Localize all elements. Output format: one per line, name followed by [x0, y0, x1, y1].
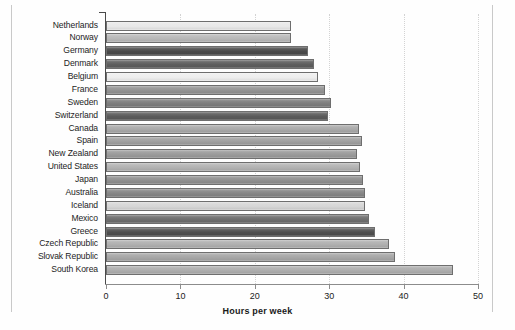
bar-row: Sweden [0, 97, 515, 110]
bar [106, 149, 357, 159]
bar-fill [107, 266, 452, 274]
bar [106, 214, 369, 224]
bar-row: France [0, 84, 515, 97]
category-label: France [72, 84, 98, 95]
bar-row: Canada [0, 123, 515, 136]
bar-row: Australia [0, 187, 515, 200]
category-label: New Zealand [48, 148, 98, 159]
x-tick-label-10: 10 [175, 291, 185, 301]
category-label: Iceland [71, 200, 98, 211]
category-label: Netherlands [53, 20, 98, 31]
y-axis-top-cap [99, 12, 106, 13]
bar-row: Spain [0, 135, 515, 148]
category-label: Denmark [64, 58, 98, 69]
bar-fill [107, 150, 356, 158]
bar-fill [107, 176, 362, 184]
bar-fill [107, 189, 364, 197]
bar-row: New Zealand [0, 148, 515, 161]
bar-row: United States [0, 161, 515, 174]
bar-row: South Korea [0, 264, 515, 277]
x-tick-label-30: 30 [324, 291, 334, 301]
bar-fill [107, 112, 327, 120]
bar-fill [107, 60, 313, 68]
bar [106, 239, 389, 249]
bar-row: Belgium [0, 71, 515, 84]
category-label: Slovak Republic [38, 251, 98, 262]
category-label: Belgium [68, 71, 98, 82]
category-label: Mexico [71, 213, 98, 224]
bar-fill [107, 73, 317, 81]
x-tick-label-20: 20 [250, 291, 260, 301]
category-label: Germany [63, 45, 98, 56]
category-label: Greece [70, 226, 98, 237]
bar-row: Iceland [0, 200, 515, 213]
x-tick-label-50: 50 [473, 291, 483, 301]
x-tick-30 [329, 284, 330, 289]
bar-fill [107, 86, 324, 94]
bar-fill [107, 125, 358, 133]
bar-fill [107, 163, 359, 171]
x-axis-title: Hours per week [0, 306, 515, 316]
bar-row: Czech Republic [0, 238, 515, 251]
bar [106, 111, 328, 121]
bar-fill [107, 202, 364, 210]
bar-row: Japan [0, 174, 515, 187]
bar-fill [107, 215, 368, 223]
x-tick-20 [255, 284, 256, 289]
category-label: Czech Republic [39, 238, 98, 249]
bar [106, 124, 359, 134]
bar-fill [107, 137, 361, 145]
bar [106, 21, 291, 31]
bar-row: Slovak Republic [0, 251, 515, 264]
category-label: Japan [75, 174, 98, 185]
bar-fill [107, 253, 394, 261]
bar [106, 265, 453, 275]
bar [106, 46, 308, 56]
category-label: Switzerland [55, 110, 98, 121]
category-label: South Korea [51, 264, 98, 275]
bar [106, 33, 291, 43]
category-label: Norway [69, 32, 98, 43]
bar-row: Greece [0, 226, 515, 239]
bar-fill [107, 22, 290, 30]
bar [106, 136, 362, 146]
bar-row: Switzerland [0, 110, 515, 123]
chart-figure: NetherlandsNorwayGermanyDenmarkBelgiumFr… [0, 0, 515, 330]
bar-fill [107, 240, 388, 248]
bar [106, 72, 318, 82]
x-tick-0 [106, 284, 107, 289]
bar [106, 59, 314, 69]
x-tick-label-40: 40 [399, 291, 409, 301]
bar-row: Netherlands [0, 20, 515, 33]
bar-fill [107, 99, 330, 107]
category-label: United States [48, 161, 98, 172]
category-label: Australia [65, 187, 98, 198]
bar [106, 175, 363, 185]
bar [106, 162, 360, 172]
bar-fill [107, 34, 290, 42]
bar [106, 227, 375, 237]
bar [106, 85, 325, 95]
x-tick-50 [478, 284, 479, 289]
bar [106, 98, 331, 108]
x-tick-10 [180, 284, 181, 289]
bar-row: Denmark [0, 58, 515, 71]
bar [106, 188, 365, 198]
bar-row: Germany [0, 45, 515, 58]
bar-row: Mexico [0, 213, 515, 226]
bar [106, 201, 365, 211]
category-label: Spain [77, 135, 98, 146]
bar-fill [107, 47, 307, 55]
x-axis-line [105, 284, 478, 285]
category-label: Canada [68, 123, 98, 134]
category-label: Sweden [68, 97, 98, 108]
x-tick-40 [404, 284, 405, 289]
bar-fill [107, 228, 374, 236]
bar-row: Norway [0, 32, 515, 45]
x-tick-label-0: 0 [103, 291, 108, 301]
bar [106, 252, 395, 262]
